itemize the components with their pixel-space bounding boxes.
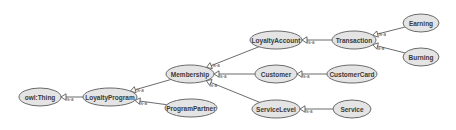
class-node-customer[interactable]: Customer [255, 65, 297, 83]
class-node-loyalty-account[interactable]: LoyaltyAccount [250, 31, 302, 49]
is-a-edge-earning-to-transaction: is-a [373, 27, 405, 37]
node-label: Membership [171, 71, 209, 79]
node-label: Service [340, 106, 364, 113]
is-a-label: is-a [377, 46, 385, 51]
is-a-edge-service-to-service-level: is-a [300, 106, 333, 114]
is-a-edge-service-level-to-membership: is-a [206, 80, 259, 103]
is-a-edge-loyalty-account-to-membership: is-a [207, 47, 259, 69]
class-node-membership[interactable]: Membership [166, 65, 214, 83]
is-a-edge-loyalty-program-to-owl-thing: is-a [61, 94, 83, 102]
hollow-triangle-arrow-icon [297, 71, 302, 77]
is-a-label: is-a [307, 40, 315, 45]
class-node-customer-card[interactable]: CustomerCard [327, 65, 377, 83]
node-label: LoyaltyAccount [252, 37, 302, 45]
is-a-edge-membership-to-loyalty-program: is-a [130, 79, 171, 93]
ontology-diagram: is-ais-ais-ais-ais-ais-ais-ais-ais-ais-a… [0, 0, 456, 130]
class-node-earning[interactable]: Earning [403, 14, 439, 32]
is-a-edge-burning-to-transaction: is-a [373, 43, 405, 53]
node-label: Burning [409, 54, 434, 62]
is-a-label: is-a [302, 74, 310, 79]
class-node-loyalty-program[interactable]: LoyaltyProgram [83, 88, 137, 106]
class-node-service-level[interactable]: ServiceLevel [252, 100, 300, 118]
nodes-layer: owl:ThingLoyaltyProgramMembershipProgram… [19, 14, 439, 118]
is-a-label: is-a [379, 32, 387, 37]
edge-line [211, 83, 260, 103]
node-label: LoyaltyProgram [85, 94, 135, 102]
class-node-service[interactable]: Service [333, 100, 371, 118]
node-label: CustomerCard [329, 71, 374, 78]
node-label: owl:Thing [25, 94, 56, 102]
hollow-triangle-arrow-icon [214, 71, 219, 77]
hollow-triangle-arrow-icon [300, 106, 305, 112]
is-a-label: is-a [140, 101, 148, 106]
class-node-burning[interactable]: Burning [403, 48, 439, 66]
is-a-edge-customer-card-to-customer: is-a [297, 71, 327, 79]
is-a-edge-transaction-to-loyalty-account: is-a [302, 37, 332, 45]
node-label: Customer [261, 71, 292, 78]
is-a-edge-customer-to-membership: is-a [214, 71, 255, 79]
node-label: ServiceLevel [256, 106, 296, 113]
node-label: Transaction [336, 37, 373, 44]
is-a-label: is-a [210, 83, 218, 88]
class-node-transaction[interactable]: Transaction [332, 31, 376, 49]
node-label: Earning [409, 20, 433, 28]
class-node-owl-thing[interactable]: owl:Thing [19, 88, 61, 106]
class-node-program-partner[interactable]: ProgramPartner [165, 99, 217, 117]
is-a-label: is-a [66, 97, 74, 102]
is-a-label: is-a [219, 74, 227, 79]
node-label: ProgramPartner [166, 105, 216, 113]
hollow-triangle-arrow-icon [61, 94, 66, 100]
is-a-label: is-a [305, 109, 313, 114]
is-a-edge-program-partner-to-loyalty-program: is-a [135, 98, 167, 106]
is-a-label: is-a [136, 88, 144, 93]
hollow-triangle-arrow-icon [302, 37, 307, 43]
is-a-label: is-a [213, 63, 221, 68]
